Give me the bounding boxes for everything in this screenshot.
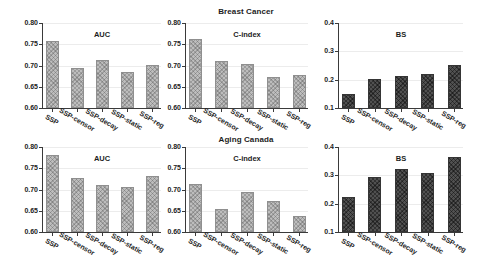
x-tick-label: SSP-reg	[440, 234, 467, 254]
y-tick-mark	[182, 211, 186, 212]
y-tick-mark	[335, 23, 339, 24]
y-tick-label: 0.4	[308, 19, 334, 27]
x-tick-mark	[299, 109, 300, 112]
x-tick-mark	[127, 233, 128, 236]
x-tick-mark	[375, 109, 376, 112]
bar-ssp	[189, 184, 202, 232]
x-tick-label: SSP	[187, 113, 203, 126]
bar-ssp-reg	[293, 216, 306, 232]
gridline	[43, 23, 161, 24]
bar-ssp-censor	[368, 177, 381, 232]
bar-ssp-reg	[448, 65, 461, 108]
x-tick-mark	[299, 233, 300, 236]
gridline	[186, 23, 308, 24]
y-tick-mark	[39, 168, 43, 169]
y-tick-mark	[182, 147, 186, 148]
metric-title: C-index	[186, 154, 308, 163]
y-tick-mark	[182, 232, 186, 233]
panel-breast-cancer-bs: BS0.10.20.30.4SSPSSP-censorSSP-decaySSP-…	[338, 23, 463, 109]
bar-ssp-decay	[241, 64, 254, 108]
y-tick-label: 0.3	[308, 47, 334, 55]
y-tick-label: 0.75	[155, 164, 181, 172]
y-tick-label: 0.70	[155, 186, 181, 194]
x-tick-mark	[195, 233, 196, 236]
y-tick-label: 0.60	[155, 104, 181, 112]
gridline	[186, 44, 308, 45]
y-tick-mark	[182, 87, 186, 88]
bar-ssp-censor	[71, 68, 84, 108]
y-tick-mark	[39, 108, 43, 109]
y-tick-mark	[182, 66, 186, 67]
y-tick-label: 0.65	[12, 207, 38, 215]
bar-ssp-static	[267, 201, 280, 232]
gridline	[43, 168, 161, 169]
panel-aging-canada-cindex: C-index0.600.650.700.750.80SSPSSP-censor…	[185, 147, 308, 233]
bar-ssp-static	[121, 72, 134, 108]
y-tick-label: 0.1	[308, 104, 334, 112]
y-tick-mark	[335, 108, 339, 109]
x-tick-mark	[221, 233, 222, 236]
y-tick-label: 0.75	[12, 40, 38, 48]
metric-title: BS	[339, 154, 463, 163]
y-tick-mark	[335, 51, 339, 52]
metric-title: AUC	[43, 154, 161, 163]
y-tick-label: 0.70	[155, 62, 181, 70]
metric-title: AUC	[43, 30, 161, 39]
figure: Breast Cancer Aging Canada AUC0.600.650.…	[0, 0, 481, 269]
gridline	[43, 147, 161, 148]
gridline	[339, 23, 463, 24]
y-tick-mark	[39, 232, 43, 233]
panel-aging-canada-auc: AUC0.600.650.700.750.80SSPSSP-censorSSP-…	[42, 147, 161, 233]
y-tick-label: 0.80	[155, 19, 181, 27]
bar-ssp-censor	[215, 61, 228, 108]
x-tick-mark	[152, 109, 153, 112]
gridline	[43, 44, 161, 45]
y-tick-mark	[39, 147, 43, 148]
bar-ssp	[342, 94, 355, 108]
x-tick-mark	[401, 109, 402, 112]
y-tick-label: 0.65	[155, 207, 181, 215]
y-tick-label: 0.60	[12, 104, 38, 112]
bar-ssp-reg	[448, 157, 461, 232]
gridline	[186, 147, 308, 148]
y-tick-label: 0.60	[155, 228, 181, 236]
y-tick-mark	[182, 44, 186, 45]
bar-ssp-static	[421, 74, 434, 108]
y-tick-mark	[39, 211, 43, 212]
x-tick-mark	[52, 109, 53, 112]
y-tick-label: 0.65	[155, 83, 181, 91]
y-tick-mark	[39, 87, 43, 88]
y-tick-label: 0.65	[12, 83, 38, 91]
gridline	[339, 147, 463, 148]
x-tick-label: SSP	[340, 237, 356, 250]
bar-ssp-decay	[395, 76, 408, 108]
y-tick-label: 0.3	[308, 171, 334, 179]
x-tick-mark	[273, 109, 274, 112]
metric-title: BS	[339, 30, 463, 39]
row-title-aging-canada: Aging Canada	[185, 135, 307, 144]
x-tick-label: SSP-reg	[440, 110, 467, 130]
x-tick-mark	[77, 109, 78, 112]
y-tick-mark	[335, 147, 339, 148]
gridline	[186, 190, 308, 191]
bar-ssp-censor	[368, 79, 381, 108]
y-tick-label: 0.4	[308, 143, 334, 151]
bar-ssp	[46, 155, 59, 232]
y-tick-label: 0.75	[12, 164, 38, 172]
x-tick-mark	[247, 109, 248, 112]
y-tick-mark	[335, 204, 339, 205]
x-tick-mark	[127, 109, 128, 112]
metric-title: C-index	[186, 30, 308, 39]
y-tick-mark	[182, 190, 186, 191]
y-tick-mark	[39, 44, 43, 45]
x-tick-mark	[247, 233, 248, 236]
bar-ssp-decay	[96, 185, 109, 232]
x-tick-label: SSP-reg	[285, 110, 312, 130]
x-tick-mark	[102, 233, 103, 236]
x-tick-mark	[273, 233, 274, 236]
x-tick-mark	[454, 109, 455, 112]
panel-breast-cancer-cindex: C-index0.600.650.700.750.80SSPSSP-censor…	[185, 23, 308, 109]
y-tick-label: 0.1	[308, 228, 334, 236]
x-tick-mark	[401, 233, 402, 236]
x-tick-mark	[348, 109, 349, 112]
